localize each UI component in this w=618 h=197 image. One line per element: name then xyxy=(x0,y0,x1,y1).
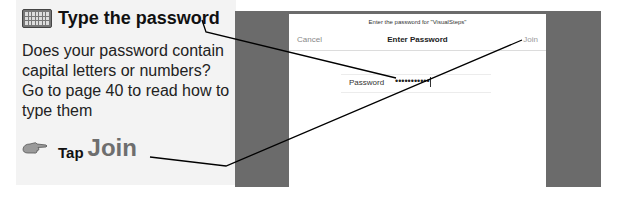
pointing-hand-icon xyxy=(22,140,48,156)
dialog-subtitle: Enter the password for "VisualSteps" xyxy=(289,19,546,25)
dialog-title: Enter Password xyxy=(289,35,546,44)
enter-password-dialog: Enter the password for "VisualSteps" Can… xyxy=(289,14,546,187)
password-field[interactable]: Password ••••••••••• xyxy=(341,74,491,93)
step-title: Type the password xyxy=(58,8,220,29)
password-dots: ••••••••••• xyxy=(395,76,430,86)
step-type-password: Type the password xyxy=(22,8,220,29)
password-input[interactable]: ••••••••••• xyxy=(395,76,431,87)
ipad-screenshot: Enter the password for "VisualSteps" Can… xyxy=(235,11,601,187)
join-button[interactable]: Join xyxy=(523,35,538,44)
keyboard-icon xyxy=(22,9,52,28)
step-tap-join: Tap Join xyxy=(22,134,137,162)
password-label: Password xyxy=(349,78,384,87)
instruction-note: Does your password contain capital lette… xyxy=(22,41,232,121)
instruction-panel: Type the password Does your password con… xyxy=(16,0,236,185)
join-target-label: Join xyxy=(88,134,137,162)
dialog-header: Cancel Enter Password Join xyxy=(289,30,546,51)
tap-label: Tap xyxy=(58,144,84,161)
text-caret xyxy=(430,77,431,87)
